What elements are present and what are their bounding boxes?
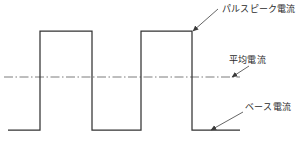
average-current-label: 平均電流 [229,54,266,65]
base-current-label: ベース電流 [245,101,291,112]
pulse-peak-current-label: パルスピーク電流 [222,3,296,14]
waveform-canvas: パルスピーク電流 平均電流 ベース電流 [0,0,303,141]
pulse-current-diagram: パルスピーク電流 平均電流 ベース電流 [0,0,303,141]
diagram-background [0,0,303,141]
